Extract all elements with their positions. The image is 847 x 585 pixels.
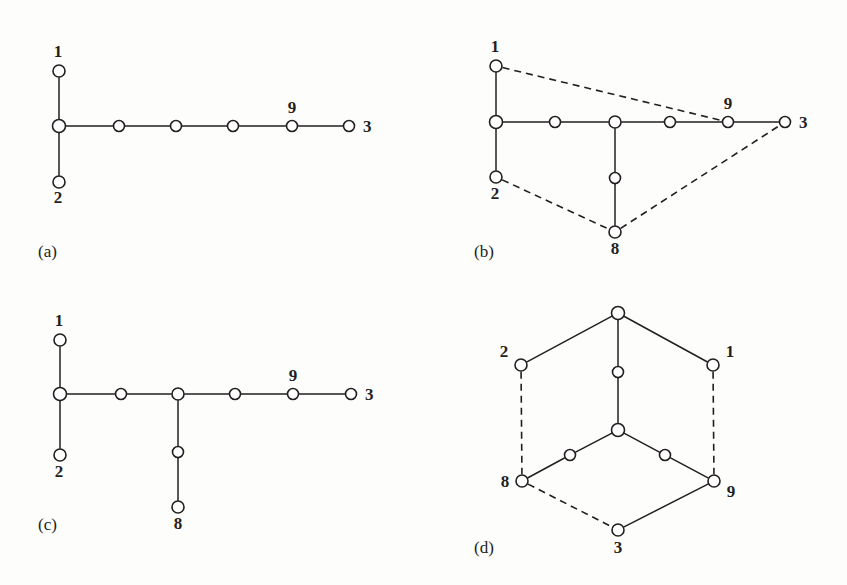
panel-caption-c: (c) <box>38 515 57 534</box>
node-b-unlabeled-1 <box>490 116 503 129</box>
node-c-unlabeled-3 <box>116 389 127 400</box>
node-b-unlabeled-4 <box>609 116 621 128</box>
node-label-b-2: 2 <box>491 184 500 203</box>
panel-b-edges <box>496 68 780 230</box>
panel-caption-d: (d) <box>474 538 494 557</box>
panel-b: 12938(b) <box>474 37 808 261</box>
node-b-unlabeled-8 <box>610 173 621 184</box>
node-a-9 <box>287 121 298 132</box>
node-d-unlabeled-5 <box>565 450 576 461</box>
node-label-a-3: 3 <box>363 117 372 136</box>
node-b-2 <box>490 171 502 183</box>
node-b-1 <box>490 60 502 72</box>
node-label-c-3: 3 <box>365 385 374 404</box>
node-b-9 <box>723 117 734 128</box>
edge-d-d-lmid-d-n8-solid <box>528 458 564 478</box>
node-label-a-9: 9 <box>288 98 297 117</box>
node-c-1 <box>54 334 66 346</box>
edge-d-d-ctr-d-rmid-solid <box>624 433 659 452</box>
panel-a: 1293(a) <box>38 42 372 261</box>
node-label-d-2: 2 <box>500 342 509 361</box>
panel-c-edges <box>60 347 345 500</box>
edge-b-b-n2-b-n8-dashed <box>502 180 609 229</box>
edge-d-d-top-d-n2-solid <box>527 316 612 361</box>
node-a-3 <box>344 121 355 132</box>
node-a-2 <box>53 176 65 188</box>
node-b-3 <box>780 117 791 128</box>
node-d-8 <box>516 475 528 487</box>
node-label-a-2: 2 <box>54 188 63 207</box>
edge-d-d-ctr-d-lmid-solid <box>576 433 612 452</box>
node-label-c-9: 9 <box>289 366 298 385</box>
panels-layer: 1293(a)12938(b)12938(c)21893(d) <box>38 37 808 557</box>
panel-b-nodes: 12938 <box>490 37 808 258</box>
node-label-d-3: 3 <box>614 538 623 557</box>
node-d-unlabeled-6 <box>660 450 671 461</box>
edge-d-d-n9-d-n3-solid <box>624 484 708 527</box>
node-label-c-1: 1 <box>55 311 64 330</box>
node-c-8 <box>172 501 184 513</box>
panel-c-nodes: 12938 <box>54 311 374 533</box>
node-d-9 <box>708 475 720 487</box>
node-c-unlabeled-1 <box>54 388 67 401</box>
node-a-unlabeled-4 <box>171 121 182 132</box>
node-a-unlabeled-1 <box>53 120 66 133</box>
node-d-unlabeled-4 <box>612 424 625 437</box>
node-label-c-8: 8 <box>174 514 183 533</box>
node-c-unlabeled-5 <box>230 389 241 400</box>
node-d-3 <box>612 524 624 536</box>
node-label-b-1: 1 <box>491 37 500 56</box>
node-c-3 <box>346 389 357 400</box>
node-a-unlabeled-3 <box>114 121 125 132</box>
edge-d-d-top-d-n1-solid <box>624 317 707 362</box>
node-label-d-8: 8 <box>501 472 510 491</box>
edge-d-d-n1-d-n9-dashed <box>713 372 714 474</box>
node-label-b-9: 9 <box>724 94 733 113</box>
node-label-b-3: 3 <box>799 113 808 132</box>
node-label-c-2: 2 <box>55 462 64 481</box>
node-label-a-1: 1 <box>54 42 63 61</box>
edge-d-d-n8-d-n3-dashed <box>528 484 612 527</box>
panel-caption-b: (b) <box>474 242 494 261</box>
node-a-unlabeled-5 <box>228 121 239 132</box>
graph-canvas: 1293(a)12938(b)12938(c)21893(d) <box>0 0 847 585</box>
edge-d-d-n2-d-n8-dashed <box>521 372 522 474</box>
node-label-d-1: 1 <box>726 342 735 361</box>
panel-a-nodes: 1293 <box>53 42 372 207</box>
node-d-unlabeled-0 <box>612 307 625 320</box>
node-a-1 <box>53 65 65 77</box>
edge-b-b-n8-b-n3-dashed <box>621 125 780 228</box>
node-c-2 <box>54 449 66 461</box>
panel-caption-a: (a) <box>38 242 57 261</box>
node-b-unlabeled-5 <box>665 117 676 128</box>
node-d-2 <box>515 359 527 371</box>
node-label-b-8: 8 <box>611 239 620 258</box>
node-c-unlabeled-8 <box>173 447 184 458</box>
panel-a-edges <box>59 78 343 175</box>
figure-root: 1293(a)12938(b)12938(c)21893(d) <box>0 0 847 585</box>
panel-d: 21893(d) <box>474 307 735 558</box>
edge-d-d-rmid-d-n9-solid <box>671 458 708 478</box>
node-d-unlabeled-3 <box>613 367 624 378</box>
panel-d-edges <box>521 316 714 526</box>
edge-b-b-n1-b-n9-dashed <box>503 68 722 121</box>
node-b-8 <box>609 226 621 238</box>
node-d-1 <box>707 359 719 371</box>
node-label-d-9: 9 <box>727 482 736 501</box>
panel-c: 12938(c) <box>38 311 374 534</box>
node-c-unlabeled-4 <box>172 388 184 400</box>
node-c-9 <box>288 389 299 400</box>
node-b-unlabeled-3 <box>550 117 561 128</box>
